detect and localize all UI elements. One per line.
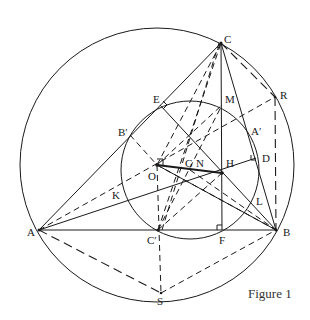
label-A: A: [27, 226, 35, 238]
point-B: [275, 229, 278, 232]
dashed-RB: [275, 97, 276, 230]
label-S: S: [157, 295, 163, 307]
altitude-CF: [221, 43, 222, 230]
label-L: L: [256, 195, 263, 207]
dashed-AS: [39, 230, 161, 293]
side-BC: [221, 43, 276, 230]
label-R: R: [280, 89, 288, 101]
label-F: F: [219, 234, 225, 246]
label-B: B: [283, 226, 290, 238]
dashed-N-B: [190, 170, 276, 230]
label-H: H: [226, 157, 234, 169]
point-H: [220, 171, 224, 175]
label-C: C: [224, 33, 231, 45]
label-B-prime: B′: [118, 126, 128, 138]
point-O: [155, 163, 159, 167]
right-angle-F: [217, 225, 222, 230]
label-M: M: [225, 93, 235, 105]
dashed-C'-C-2: [162, 43, 219, 230]
label-A-prime: A′: [251, 125, 261, 137]
label-D: D: [262, 152, 270, 164]
geometry-figure: C R E M B′ A′ D O G N H K L A B C′ F S F…: [0, 0, 310, 320]
point-R: [274, 96, 277, 99]
point-C-prime: [157, 229, 160, 232]
label-N: N: [196, 157, 204, 169]
figure-caption: Figure 1: [248, 286, 292, 301]
label-C-prime: C′: [147, 234, 157, 246]
label-O: O: [148, 170, 156, 182]
right-angle-E: [163, 101, 167, 109]
side-AC: [39, 43, 221, 230]
label-G: G: [185, 157, 193, 169]
point-A: [38, 229, 41, 232]
point-C: [220, 42, 223, 45]
label-E: E: [153, 93, 160, 105]
dashed-O-M: [157, 105, 222, 165]
dashed-B'O: [130, 135, 157, 165]
label-K: K: [112, 189, 120, 201]
point-S: [160, 292, 163, 295]
